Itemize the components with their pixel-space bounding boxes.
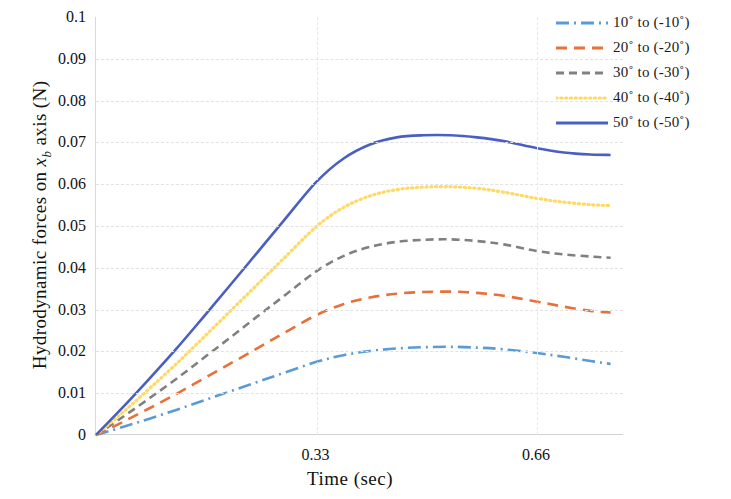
gridline-vertical [537,17,538,435]
series-line-1 [96,347,611,435]
gridline-vertical [317,17,318,435]
legend-label: 40˚ to (-40˚) [613,89,690,106]
x-axis-tick-label: 0.33 [302,446,330,464]
plot-area [95,17,623,435]
gridline-horizontal [96,59,623,60]
series-line-2 [96,292,611,435]
y-axis-tick-label: 0.01 [20,385,86,401]
y-axis-tick-label: 0.03 [20,302,86,318]
gridline-horizontal [96,351,623,352]
legend-swatch-4 [556,92,608,104]
legend-item[interactable]: 10˚ to (-10˚) [556,10,731,35]
legend-label: 30˚ to (-30˚) [613,64,690,81]
legend-swatch-2 [556,42,608,54]
y-axis-tick-label: 0.09 [20,51,86,67]
legend: 10˚ to (-10˚)20˚ to (-20˚)30˚ to (-30˚)4… [556,10,731,135]
gridline-horizontal [96,393,623,394]
gridline-horizontal [96,142,623,143]
series-line-5 [96,135,611,435]
legend-label: 20˚ to (-20˚) [613,39,690,56]
y-axis-tick-label: 0 [20,427,86,443]
legend-swatch-5 [556,117,608,129]
legend-swatch-3 [556,67,608,79]
y-axis-tick-label: 0.08 [20,93,86,109]
y-axis-tick-label: 0.04 [20,260,86,276]
gridline-horizontal [96,101,623,102]
legend-label: 50˚ to (-50˚) [613,114,690,131]
y-axis-tick-label: 0.05 [20,218,86,234]
y-axis-tick-label: 0.07 [20,134,86,150]
legend-swatch-1 [556,17,608,29]
gridline-horizontal [96,268,623,269]
legend-label: 10˚ to (-10˚) [613,14,690,31]
x-axis-tick-label: 0.66 [522,446,550,464]
gridline-horizontal [96,184,623,185]
y-axis-tick-labels: 0.10.090.080.070.060.050.040.030.020.010 [20,0,86,499]
x-axis-title: Time (sec) [0,468,700,490]
gridline-horizontal [96,310,623,311]
series-line-4 [96,187,611,435]
gridline-horizontal [96,226,623,227]
y-axis-tick-label: 0.1 [20,9,86,25]
legend-item[interactable]: 20˚ to (-20˚) [556,35,731,60]
y-axis-tick-label: 0.06 [20,176,86,192]
legend-item[interactable]: 50˚ to (-50˚) [556,110,731,135]
y-axis-tick-label: 0.02 [20,343,86,359]
chart-container: Hydrodynamic forces on xb axis (N) 0.10.… [0,0,731,499]
legend-item[interactable]: 40˚ to (-40˚) [556,85,731,110]
legend-item[interactable]: 30˚ to (-30˚) [556,60,731,85]
